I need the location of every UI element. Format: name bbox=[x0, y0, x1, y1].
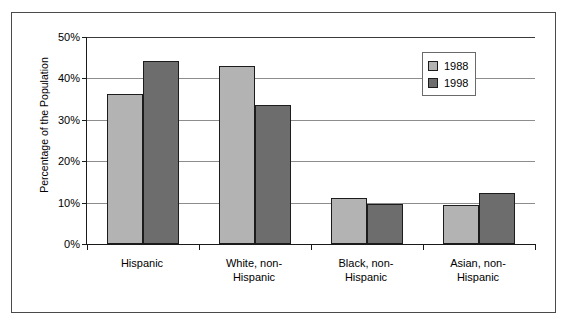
category-label-line: Hispanic bbox=[86, 256, 198, 270]
x-tick-mark bbox=[535, 244, 536, 250]
y-tick-mark bbox=[82, 203, 87, 204]
category-label-1: Hispanic bbox=[86, 256, 198, 270]
legend-label: 1998 bbox=[444, 77, 468, 89]
x-tick-mark bbox=[423, 244, 424, 250]
gridline-50% bbox=[87, 37, 535, 38]
x-tick-mark bbox=[311, 244, 312, 250]
bar-hispanic-1988 bbox=[107, 94, 143, 244]
y-tick-label: 30% bbox=[58, 114, 80, 126]
bar-asian-non-hispanic-1998 bbox=[479, 193, 515, 244]
y-tick-label: 50% bbox=[58, 31, 80, 43]
y-axis-title: Percentage of the Population bbox=[38, 30, 50, 220]
bar-black-non-hispanic-1988 bbox=[331, 198, 367, 244]
category-label-3: Black, non-Hispanic bbox=[310, 256, 422, 284]
y-tick-mark bbox=[82, 161, 87, 162]
category-label-line: White, non- bbox=[198, 256, 310, 270]
x-tick-mark bbox=[87, 244, 88, 250]
y-tick-mark bbox=[82, 37, 87, 38]
legend-swatch-icon bbox=[428, 78, 438, 88]
x-tick-mark bbox=[199, 244, 200, 250]
bar-hispanic-1998 bbox=[143, 61, 179, 244]
chart-frame: Percentage of the Population 0%10%20%30%… bbox=[11, 12, 556, 313]
legend-swatch-icon bbox=[428, 61, 438, 71]
chart-legend: 19881998 bbox=[422, 52, 476, 96]
y-tick-mark bbox=[82, 78, 87, 79]
bar-white-non-hispanic-1998 bbox=[255, 105, 291, 244]
category-label-line: Black, non- bbox=[310, 256, 422, 270]
category-label-4: Asian, non-Hispanic bbox=[422, 256, 534, 284]
y-tick-label: 20% bbox=[58, 155, 80, 167]
bar-white-non-hispanic-1988 bbox=[219, 66, 255, 244]
y-tick-label: 0% bbox=[64, 238, 80, 250]
category-label-line: Hispanic bbox=[198, 270, 310, 284]
legend-label: 1988 bbox=[444, 60, 468, 72]
y-tick-label: 10% bbox=[58, 197, 80, 209]
category-label-line: Hispanic bbox=[422, 270, 534, 284]
legend-item-1988: 1988 bbox=[428, 57, 468, 74]
legend-item-1998: 1998 bbox=[428, 74, 468, 91]
y-tick-label: 40% bbox=[58, 72, 80, 84]
bar-asian-non-hispanic-1988 bbox=[443, 205, 479, 244]
category-label-line: Asian, non- bbox=[422, 256, 534, 270]
bar-black-non-hispanic-1998 bbox=[367, 204, 403, 244]
y-tick-mark bbox=[82, 120, 87, 121]
category-label-2: White, non-Hispanic bbox=[198, 256, 310, 284]
category-label-line: Hispanic bbox=[310, 270, 422, 284]
